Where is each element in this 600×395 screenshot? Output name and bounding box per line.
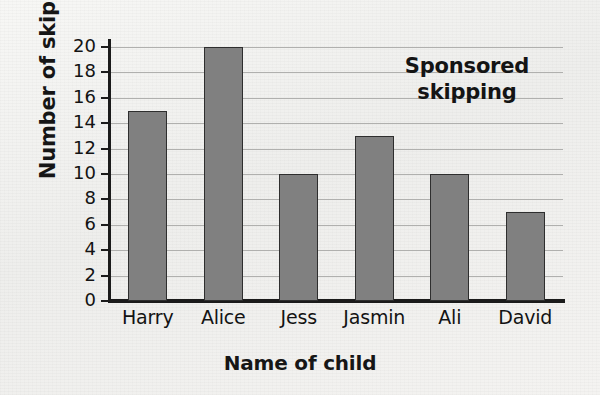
x-axis-title: Name of child [0,351,600,375]
y-axis-tick [101,46,110,48]
y-axis-tick [101,249,110,251]
bar-jess [279,174,318,301]
y-axis-tick-label: 18 [52,60,96,81]
y-axis-tick-label: 14 [52,111,96,132]
y-axis-tick-label: 12 [52,137,96,158]
y-axis-tick-label: 8 [52,187,96,208]
y-axis-tick [101,275,110,277]
y-axis-tick-label: 6 [52,213,96,234]
y-axis-tick-label: 16 [52,86,96,107]
bar-harry [128,111,167,302]
y-axis-tick [101,71,110,73]
y-axis-tick-label: 4 [52,238,96,259]
y-axis-tick [101,300,110,302]
y-axis-tick [101,97,110,99]
y-axis-tick [101,122,110,124]
y-axis-tick [101,198,110,200]
y-axis-tick [101,173,110,175]
y-axis-tick-label: 2 [52,264,96,285]
bar-ali [430,174,469,301]
bar-jasmin [355,136,394,301]
x-axis-tick-label: David [465,306,585,328]
y-axis-tick-label: 20 [52,35,96,56]
y-axis-tick [101,148,110,150]
chart-title-line: skipping [372,79,562,105]
chart-title: Sponsoredskipping [372,53,562,105]
chart-page: Number of skips Sponsoredskipping Name o… [0,0,600,395]
bar-alice [204,47,243,301]
y-axis-tick-label: 10 [52,162,96,183]
bar-david [506,212,545,301]
chart-title-line: Sponsored [372,53,562,79]
y-axis-tick [101,224,110,226]
